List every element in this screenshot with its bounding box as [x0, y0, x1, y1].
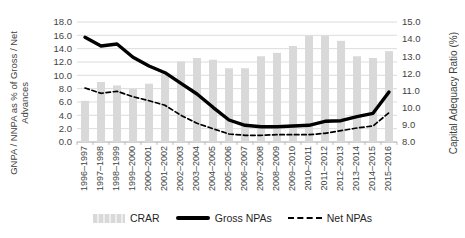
- left-axis-tick-label: 16.0: [54, 30, 73, 41]
- chart-container: 18.016.014.012.010.08.06.04.02.00.015.01…: [0, 0, 465, 238]
- chart-plot: 18.016.014.012.010.08.06.04.02.00.015.01…: [0, 0, 465, 238]
- right-axis-tick-label: 8.0: [402, 136, 415, 147]
- x-axis-label: 1997–1998: [95, 146, 105, 191]
- x-axis-label: 2006–2007: [239, 146, 249, 191]
- bar-crar: [369, 58, 377, 142]
- right-axis-title: Capital Adequacy Ratio (%): [443, 8, 463, 178]
- x-axis-label: 2014–2015: [367, 146, 377, 191]
- right-axis-title-text: Capital Adequacy Ratio (%): [448, 32, 459, 154]
- right-axis-tick-label: 9.0: [402, 119, 415, 130]
- legend-label-gross-npas: Gross NPAs: [215, 212, 272, 224]
- left-axis-tick-label: 6.0: [59, 96, 72, 107]
- x-axis-label: 2005–2006: [223, 146, 233, 191]
- left-axis-tick-label: 0.0: [59, 136, 72, 147]
- x-axis-label: 2011–2012: [319, 146, 329, 190]
- x-axis-label: 1999–2000: [127, 146, 137, 191]
- x-axis-label: 2001–2002: [159, 146, 169, 191]
- legend: CRARGross NPAsNet NPAs: [0, 204, 465, 232]
- bar-crar: [113, 85, 121, 142]
- bar-crar: [97, 82, 105, 142]
- x-axis-label: 2007–2008: [255, 146, 265, 191]
- bar-crar: [193, 58, 201, 142]
- x-axis-label: 2002–2003: [175, 146, 185, 191]
- bar-crar: [337, 41, 345, 142]
- bar-crar: [81, 101, 89, 142]
- left-axis-tick-label: 10.0: [54, 70, 73, 81]
- legend-swatch-gross-npas-icon: [176, 216, 210, 220]
- right-axis-tick-label: 14.0: [402, 33, 421, 44]
- legend-item-crar: CRAR: [93, 212, 160, 224]
- right-axis-tick-label: 11.0: [402, 85, 420, 96]
- left-axis-tick-label: 14.0: [54, 43, 73, 54]
- left-axis-tick-label: 2.0: [59, 123, 72, 134]
- bar-crar: [177, 61, 185, 142]
- x-axis-label: 2008–2009: [271, 146, 281, 191]
- right-axis-tick-label: 13.0: [402, 51, 421, 62]
- x-axis-label: 2015–2016: [383, 146, 393, 191]
- legend-item-net-npas: Net NPAs: [288, 212, 372, 224]
- x-axis-label: 1996–1997: [79, 146, 89, 191]
- legend-item-gross-npas: Gross NPAs: [176, 212, 272, 224]
- x-axis-label: 2009–2010: [287, 146, 297, 191]
- bar-crar: [161, 73, 169, 142]
- left-axis-tick-label: 18.0: [54, 16, 73, 27]
- bar-crar: [225, 68, 233, 142]
- x-axis-label: 2000–2001: [143, 146, 153, 191]
- legend-swatch-crar-icon: [93, 214, 125, 223]
- x-axis-label: 2003–2004: [191, 146, 201, 191]
- x-axis-label: 2012–2013: [335, 146, 345, 191]
- right-axis-tick-label: 15.0: [402, 16, 421, 27]
- x-axis-label: 2010–2011: [303, 146, 313, 190]
- left-axis-tick-label: 8.0: [59, 83, 72, 94]
- x-axis-label: 2013–2014: [351, 146, 361, 191]
- x-axis-label: 2004–2005: [207, 146, 217, 191]
- x-axis-label: 1998–1999: [111, 146, 121, 191]
- bar-crar: [257, 56, 265, 142]
- bar-crar: [241, 68, 249, 142]
- bar-crar: [321, 36, 329, 142]
- bar-crar: [273, 53, 281, 142]
- right-axis-tick-label: 10.0: [402, 102, 421, 113]
- left-axis-title: GNPA / NNPA as % of Gross / Net Advances: [2, 2, 35, 204]
- left-axis-title-line2: Advances: [19, 82, 30, 124]
- legend-label-crar: CRAR: [130, 212, 160, 224]
- bar-crar: [145, 84, 153, 142]
- legend-label-net-npas: Net NPAs: [327, 212, 372, 224]
- left-axis-tick-label: 12.0: [54, 56, 73, 67]
- right-axis-tick-label: 12.0: [402, 68, 421, 79]
- legend-swatch-net-npas-icon: [288, 217, 322, 219]
- left-axis-tick-label: 4.0: [59, 110, 72, 121]
- left-axis-title-line1: GNPA / NNPA as % of Gross / Net: [8, 31, 19, 175]
